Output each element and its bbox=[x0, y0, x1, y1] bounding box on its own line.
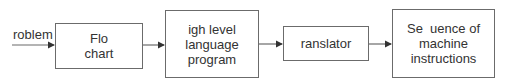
node-translator: ranslator bbox=[283, 26, 369, 61]
node-text: Flo bbox=[85, 31, 114, 46]
node-text: ranslator bbox=[301, 36, 352, 51]
node-flowchart: Flochart bbox=[55, 23, 143, 69]
node-text: language bbox=[185, 37, 239, 52]
input-label: roblem bbox=[13, 27, 53, 42]
node-text: chart bbox=[85, 46, 114, 61]
node-machine-instructions: Se uence ofmachineinstructions bbox=[392, 9, 495, 78]
node-text: instructions bbox=[407, 51, 480, 66]
node-text: program bbox=[185, 52, 239, 67]
node-text: machine bbox=[407, 36, 480, 51]
node-text: Se uence of bbox=[407, 21, 480, 36]
node-high-level-language: igh levellanguageprogram bbox=[165, 10, 259, 78]
node-text: igh level bbox=[185, 22, 239, 37]
